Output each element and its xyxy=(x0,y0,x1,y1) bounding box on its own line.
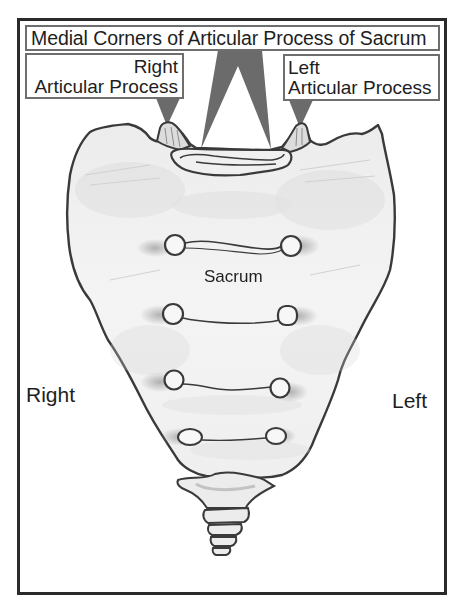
label-left-ap-line2: Articular Process xyxy=(288,78,438,98)
label-side-left: Left xyxy=(392,390,427,412)
label-medial-corners-text: Medial Corners of Articular Process of S… xyxy=(31,28,438,48)
label-left-ap-line1: Left xyxy=(288,58,438,78)
label-side-right: Right xyxy=(26,384,75,406)
label-medial-corners: Medial Corners of Articular Process of S… xyxy=(25,25,440,51)
coccyx xyxy=(177,472,274,555)
medial-corner-pointer-right xyxy=(236,50,271,149)
label-sacrum: Sacrum xyxy=(204,267,263,287)
label-right-ap-line1: Right xyxy=(27,57,178,77)
label-right-articular-process: Right Articular Process xyxy=(25,53,184,99)
label-right-ap-line2: Articular Process xyxy=(27,77,178,97)
label-left-articular-process: Left Articular Process xyxy=(283,54,440,101)
medial-corner-pointer-left xyxy=(201,50,240,149)
